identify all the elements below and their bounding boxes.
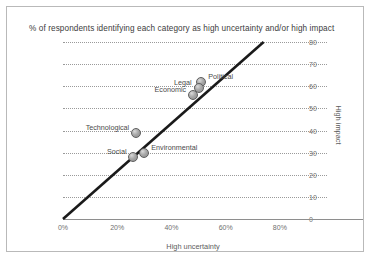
x-tick-label: 0% bbox=[58, 224, 68, 231]
y-tick-label: 60 bbox=[309, 83, 317, 90]
data-point-label: Social bbox=[107, 147, 127, 156]
data-point-marker bbox=[139, 148, 149, 158]
data-point-label: Technological bbox=[86, 122, 130, 131]
y-tick-label: 10 bbox=[309, 193, 317, 200]
gridline bbox=[63, 108, 327, 109]
x-tick-label: 80% bbox=[273, 224, 287, 231]
x-tick-label: 40% bbox=[164, 224, 178, 231]
y-tick-label: 40 bbox=[309, 127, 317, 134]
gridline bbox=[63, 153, 327, 154]
data-point-label: Environmental bbox=[151, 142, 197, 151]
chart-frame: % of respondents identifying each catego… bbox=[6, 6, 364, 252]
gridline bbox=[63, 42, 327, 43]
chart-title: % of respondents identifying each catego… bbox=[29, 24, 334, 33]
data-point-label: Political bbox=[208, 71, 233, 80]
y-tick-label: 80 bbox=[309, 39, 317, 46]
data-point-marker bbox=[131, 128, 141, 138]
gridline bbox=[63, 64, 327, 65]
x-tick-label: 60% bbox=[219, 224, 233, 231]
gridline bbox=[63, 197, 327, 198]
x-tick-label: 20% bbox=[110, 224, 124, 231]
x-axis-line bbox=[63, 219, 363, 220]
y-tick-label: 20 bbox=[309, 171, 317, 178]
data-point-label: Economic bbox=[155, 85, 187, 94]
y-axis-label: High impact bbox=[334, 105, 343, 144]
gridline bbox=[63, 175, 327, 176]
y-tick-label: 50 bbox=[309, 105, 317, 112]
x-axis-label: High uncertainty bbox=[7, 242, 372, 251]
y-tick-label: 30 bbox=[309, 149, 317, 156]
y-tick-label: 70 bbox=[309, 61, 317, 68]
